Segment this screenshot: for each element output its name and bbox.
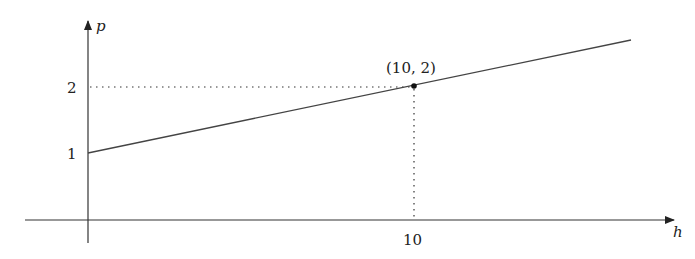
x-axis-label: h <box>673 223 683 241</box>
y-axis-label: p <box>96 17 106 35</box>
chart: (10, 2) 2 1 10 p h <box>0 0 695 259</box>
x-tick-10: 10 <box>403 231 422 249</box>
data-point <box>411 83 417 89</box>
y-tick-1: 1 <box>67 145 77 163</box>
series-line <box>88 40 631 153</box>
y-tick-2: 2 <box>67 79 77 97</box>
point-label: (10, 2) <box>386 59 436 77</box>
